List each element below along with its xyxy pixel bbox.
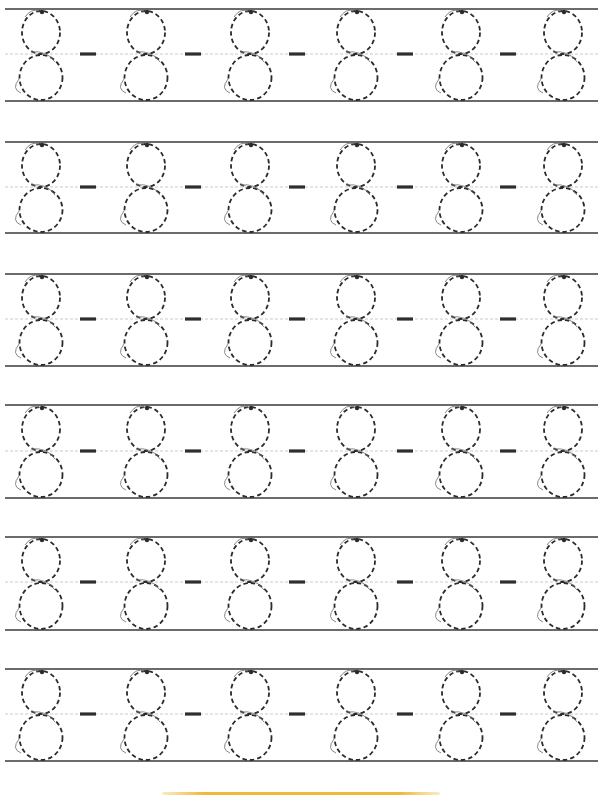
lower-loop bbox=[335, 715, 378, 760]
start-dot-icon bbox=[460, 670, 464, 674]
traceable-digit-8[interactable] bbox=[224, 670, 271, 760]
upper-loop bbox=[22, 671, 60, 714]
lower-loop bbox=[125, 715, 168, 760]
tracing-worksheet: Number 8 tracing practice bbox=[0, 0, 605, 795]
lower-loop bbox=[229, 715, 272, 760]
lower-loop bbox=[542, 715, 585, 760]
upper-loop bbox=[127, 671, 165, 714]
lower-loop bbox=[20, 715, 63, 760]
traceable-digit-8[interactable] bbox=[330, 670, 377, 760]
lower-loop bbox=[440, 715, 483, 760]
tracing-row-graphics bbox=[0, 0, 605, 795]
tracing-row bbox=[0, 0, 605, 795]
start-dot-icon bbox=[40, 670, 44, 674]
traceable-digit-8[interactable] bbox=[435, 670, 482, 760]
upper-loop bbox=[231, 671, 269, 714]
upper-loop bbox=[544, 671, 582, 714]
start-dot-icon bbox=[355, 670, 359, 674]
traceable-digit-8[interactable] bbox=[537, 670, 584, 760]
traceable-digit-8[interactable] bbox=[120, 670, 167, 760]
upper-loop bbox=[442, 671, 480, 714]
traceable-digit-8[interactable] bbox=[15, 670, 62, 760]
start-dot-icon bbox=[145, 670, 149, 674]
start-dot-icon bbox=[249, 670, 253, 674]
start-dot-icon bbox=[562, 670, 566, 674]
upper-loop bbox=[337, 671, 375, 714]
